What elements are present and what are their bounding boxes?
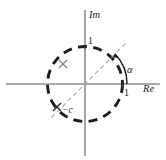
angle-alpha-arc [115, 54, 127, 84]
real-unit-tick-label: 1 [124, 87, 129, 98]
imaginary-axis-label: Im [88, 9, 100, 20]
complex-plane-figure: Im Re 1 1 α −c [0, 0, 166, 160]
angle-alpha-label: α [127, 64, 133, 75]
pole-minus-c-label: −c [62, 105, 73, 115]
figure-canvas: Im Re 1 1 α −c [0, 0, 166, 160]
cross-marker-upper-left [59, 60, 67, 68]
imaginary-unit-tick-label: 1 [88, 35, 93, 46]
real-axis-label: Re [142, 83, 154, 94]
